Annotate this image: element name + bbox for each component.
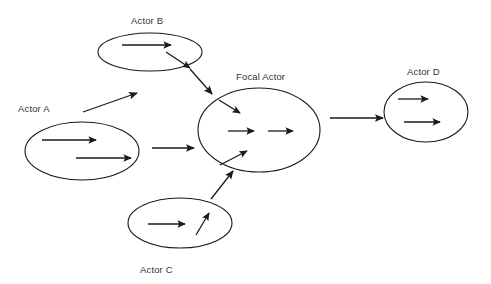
actor-b-inner-arrows — [122, 45, 190, 68]
focal-actor-inner-arrows — [219, 100, 293, 165]
actor-d-label: Actor D — [407, 66, 440, 77]
actor-c-inner-arrow-2 — [196, 213, 209, 235]
focal-actor-inner-arrow-1 — [219, 100, 240, 113]
node-actor-c[interactable]: Actor C — [128, 198, 232, 275]
actor-d-inner-arrows — [398, 99, 440, 122]
actor-b-inner-arrow-2 — [166, 52, 190, 68]
focal-actor-label: Focal Actor — [236, 71, 285, 82]
focal-actor-inner-arrow-4 — [220, 151, 247, 165]
node-actor-d[interactable]: Actor D — [384, 66, 468, 142]
actor-b-label: Actor B — [131, 15, 163, 26]
node-actor-b[interactable]: Actor B — [98, 15, 202, 71]
diagram-canvas: Actor A Actor B Focal Actor — [0, 0, 491, 284]
actor-a-label: Actor A — [18, 103, 50, 114]
actor-a-ellipse[interactable] — [25, 122, 139, 180]
connector-actor-b-to-focal-actor — [190, 69, 212, 94]
connector-actor-a-to-actor-b — [83, 93, 137, 112]
connector-actor-c-to-focal-actor — [211, 171, 233, 199]
actor-d-ellipse[interactable] — [384, 82, 468, 142]
actor-a-inner-arrows — [42, 140, 131, 158]
actor-c-ellipse[interactable] — [128, 198, 232, 248]
focal-actor-ellipse[interactable] — [198, 88, 320, 172]
actor-c-label: Actor C — [140, 264, 173, 275]
actor-network-diagram: Actor A Actor B Focal Actor — [0, 0, 491, 284]
actor-c-inner-arrows — [148, 213, 209, 235]
node-focal-actor[interactable]: Focal Actor — [198, 71, 320, 172]
node-actor-a[interactable]: Actor A — [18, 103, 139, 180]
